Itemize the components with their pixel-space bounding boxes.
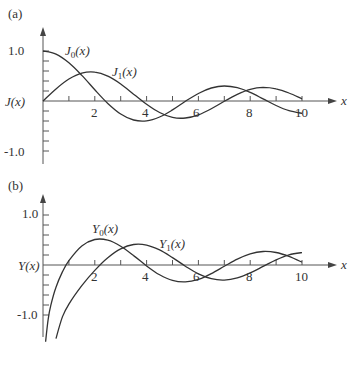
panel-a-x-axis-arrow-icon <box>328 98 337 104</box>
panel-b-y-label: Y(x) <box>18 258 40 273</box>
panel-b-xtick-4: 4 <box>142 269 149 284</box>
panel-b: (b) x 1.0 -1.0 Y(x) 2 4 6 8 10 Y0(x) Y1(… <box>8 178 347 342</box>
panel-a-y-axis-arrow-icon <box>40 27 46 36</box>
panel-a-ytick-1: 1.0 <box>8 43 24 58</box>
panel-a-xtick-6: 6 <box>193 105 200 120</box>
panel-a-ytick-neg1: -1.0 <box>4 144 25 159</box>
curve-j0 <box>43 51 302 121</box>
panel-b-ytick-1: 1.0 <box>22 206 38 221</box>
panel-a-xtick-2: 2 <box>91 105 98 120</box>
panel-b-x-axis-arrow-icon <box>328 262 337 268</box>
panel-a-y-label: J(x) <box>5 94 25 109</box>
legend-y1: Y1(x) <box>159 236 185 253</box>
panel-b-x-label: x <box>340 257 347 272</box>
legend-j1: J1(x) <box>112 64 137 81</box>
curve-y0 <box>46 239 302 342</box>
curve-y1 <box>56 244 302 338</box>
panel-b-xtick-8: 8 <box>246 269 253 284</box>
panel-b-label: (b) <box>8 178 23 193</box>
legend-j0: J0(x) <box>65 43 90 60</box>
panel-b-ytick-neg1: -1.0 <box>17 307 38 322</box>
panel-a-label: (a) <box>8 6 22 21</box>
curve-j1 <box>43 72 302 118</box>
panel-b-y-axis-arrow-icon <box>40 194 46 203</box>
panel-a-xtick-8: 8 <box>246 105 253 120</box>
panel-a-x-label: x <box>340 93 347 108</box>
panel-a-xtick-4: 4 <box>142 105 149 120</box>
panel-b-xtick-10: 10 <box>295 269 308 284</box>
bessel-functions-figure: (a) x 1.0 -1.0 J(x) 2 4 6 8 10 J0(x) J1(… <box>0 0 349 367</box>
panel-a: (a) x 1.0 -1.0 J(x) 2 4 6 8 10 J0(x) J1(… <box>4 6 347 164</box>
legend-y0: Y0(x) <box>92 221 118 238</box>
